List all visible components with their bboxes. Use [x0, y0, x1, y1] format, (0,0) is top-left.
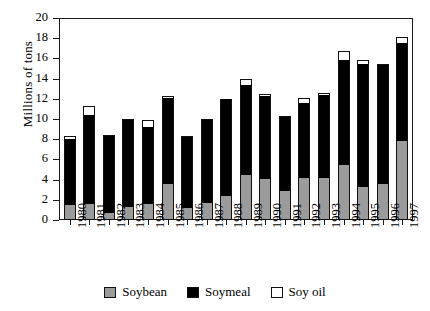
black-square-icon	[187, 287, 199, 298]
x-axis-tick	[128, 220, 129, 225]
x-axis-tick-label: 1983	[133, 182, 148, 228]
bar-segment-soymeal	[377, 65, 389, 183]
y-axis-tick-label: 14	[8, 72, 48, 84]
y-axis-tick-label: 6	[8, 152, 48, 164]
x-axis-tick-label: 1981	[94, 182, 109, 228]
bar-segment-soymeal	[259, 96, 271, 179]
x-axis-tick	[304, 220, 305, 225]
bar-segment-soymeal	[318, 95, 330, 178]
y-axis-tick-label: 8	[8, 132, 48, 144]
y-axis-tick-label: 2	[8, 193, 48, 205]
x-axis-tick	[246, 220, 247, 225]
legend-item: Soy oil	[271, 284, 326, 300]
y-axis-tick	[53, 79, 59, 80]
x-axis-tick	[285, 220, 286, 225]
x-axis-tick-label: 1980	[75, 182, 90, 228]
x-axis-tick-label: 1984	[153, 182, 168, 228]
white-square-icon	[271, 287, 283, 298]
x-axis-tick-label: 1996	[388, 182, 403, 228]
y-axis-tick	[53, 38, 59, 39]
x-axis-tick-label: 1992	[309, 182, 324, 228]
bar-segment-soymeal	[279, 117, 291, 191]
bar-segment-soymeal	[64, 139, 76, 205]
x-axis-tick	[109, 220, 110, 225]
x-axis-tick	[363, 220, 364, 225]
y-axis-tick-label: 16	[8, 51, 48, 63]
y-axis-tick-label: 10	[8, 112, 48, 124]
y-axis-tick-label: 20	[8, 11, 48, 23]
y-axis-tick	[53, 180, 59, 181]
bar-segment-soymeal	[357, 64, 369, 186]
y-axis-tick-label: 18	[8, 31, 48, 43]
x-axis-tick-label: 1993	[329, 182, 344, 228]
legend-item-label: Soymeal	[205, 284, 251, 300]
x-axis-tick-label: 1991	[290, 182, 305, 228]
x-axis-tick	[168, 220, 169, 225]
bar-segment-soymeal	[240, 85, 252, 175]
gray-square-icon	[104, 287, 116, 298]
y-axis-tick	[53, 99, 59, 100]
x-axis-tick	[402, 220, 403, 225]
x-axis-tick-label: 1994	[349, 182, 364, 228]
x-axis-tick-label: 1987	[212, 182, 227, 228]
bar-segment-soy-oil	[338, 51, 350, 60]
x-axis-tick-label: 1985	[173, 182, 188, 228]
y-axis-tick	[53, 200, 59, 201]
bar-segment-soymeal	[298, 103, 310, 178]
bar-segment-soymeal	[338, 60, 350, 165]
legend-item-label: Soy oil	[289, 284, 326, 300]
x-axis-tick	[226, 220, 227, 225]
bar-segment-soybean	[64, 205, 76, 220]
x-axis-tick	[89, 220, 90, 225]
bar-segment-soy-oil	[142, 120, 154, 127]
x-axis-tick-label: 1990	[270, 182, 285, 228]
x-axis-tick	[70, 220, 71, 225]
bar-segment-soymeal	[162, 98, 174, 184]
legend-item: Soybean	[104, 284, 167, 300]
x-axis-tick	[207, 220, 208, 225]
y-axis-tick	[53, 220, 59, 221]
y-axis-tick	[53, 119, 59, 120]
chart-legend: SoybeanSoymealSoy oil	[0, 284, 430, 300]
x-axis-tick-label: 1997	[407, 182, 422, 228]
chart-figure: Millions of tons SoybeanSoymealSoy oil 0…	[0, 0, 430, 311]
x-axis-tick	[265, 220, 266, 225]
x-axis-tick	[148, 220, 149, 225]
x-axis-tick-label: 1989	[251, 182, 266, 228]
y-axis-tick	[53, 159, 59, 160]
y-axis-tick	[53, 58, 59, 59]
y-axis-tick	[53, 18, 59, 19]
bar-segment-soy-oil	[83, 106, 95, 115]
x-axis-tick	[187, 220, 188, 225]
y-axis-tick-label: 0	[8, 213, 48, 225]
x-axis-tick-label: 1986	[192, 182, 207, 228]
y-axis-tick-label: 4	[8, 173, 48, 185]
legend-item: Soymeal	[187, 284, 251, 300]
x-axis-tick-label: 1982	[114, 182, 129, 228]
x-axis-tick-label: 1988	[231, 182, 246, 228]
legend-item-label: Soybean	[122, 284, 167, 300]
x-axis-tick	[383, 220, 384, 225]
x-axis-tick	[324, 220, 325, 225]
bar-stack	[64, 136, 76, 220]
y-axis-tick-label: 12	[8, 92, 48, 104]
y-axis-tick	[53, 139, 59, 140]
x-axis-tick	[344, 220, 345, 225]
x-axis-tick-label: 1995	[368, 182, 383, 228]
bar-segment-soymeal	[396, 43, 408, 141]
